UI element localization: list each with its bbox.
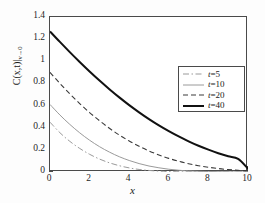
x-tick-label: 10 — [232, 174, 262, 184]
legend-item-t10: t=10 — [182, 80, 241, 91]
legend-label: t=40 — [208, 101, 225, 110]
y-tick-label: 0.8 — [0, 77, 45, 87]
y-tick-label: 0.2 — [0, 144, 45, 154]
y-tick-label: 1 — [0, 55, 45, 65]
legend-label-value: =5 — [211, 69, 221, 79]
x-tick-label: 8 — [192, 174, 222, 184]
x-tick-label: 0 — [34, 174, 64, 184]
figure-container: C(x,t)|v→0 00.20.40.60.811.21.4 0246810 … — [0, 0, 265, 203]
y-tick-label: 0.6 — [0, 100, 45, 110]
x-tick-label: 4 — [113, 174, 143, 184]
legend-line-sample — [182, 90, 205, 100]
legend-line-sample — [182, 69, 205, 79]
legend-item-t20: t=20 — [182, 90, 241, 101]
legend-label: t=20 — [208, 91, 225, 100]
x-tick-label: 2 — [74, 174, 104, 184]
chart-legend: t=5t=10t=20t=40 — [178, 66, 245, 112]
curve-t10 — [50, 104, 248, 172]
x-tick-label: 6 — [153, 174, 183, 184]
y-tick-label: 1.2 — [0, 33, 45, 43]
legend-line-sample — [182, 101, 205, 111]
legend-label: t=5 — [208, 70, 220, 79]
legend-item-t40: t=40 — [182, 101, 241, 112]
legend-label-value: =40 — [211, 100, 225, 110]
y-tick-label: 1.4 — [0, 11, 45, 21]
legend-label-value: =10 — [211, 79, 225, 89]
curve-t5 — [50, 122, 248, 172]
legend-item-t5: t=5 — [182, 69, 241, 80]
legend-label-value: =20 — [211, 90, 225, 100]
legend-label: t=10 — [208, 80, 225, 89]
legend-line-sample — [182, 80, 205, 90]
x-axis-label: x — [0, 184, 265, 196]
y-tick-label: 0.4 — [0, 122, 45, 132]
